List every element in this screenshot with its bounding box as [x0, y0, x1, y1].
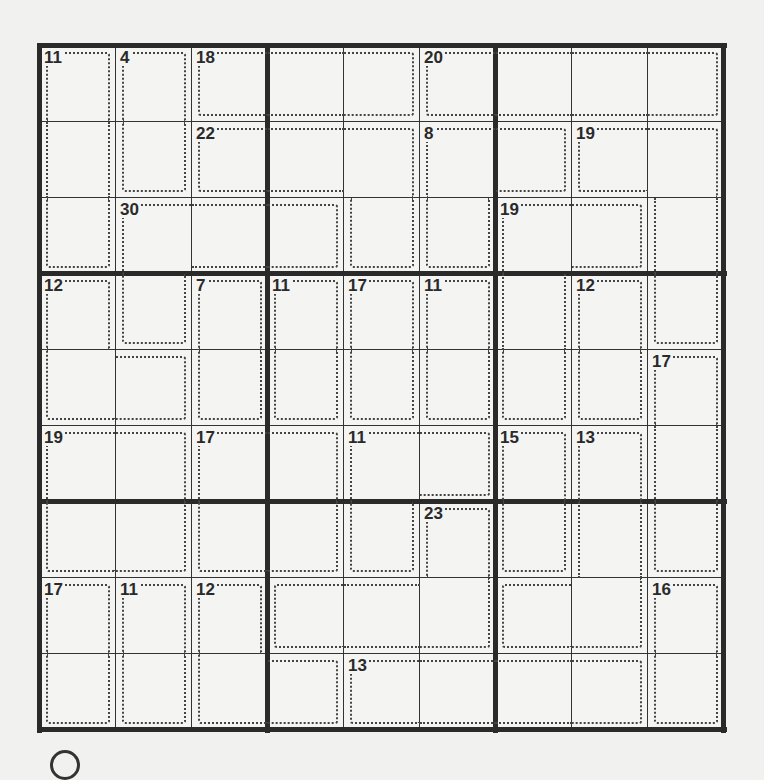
cage-sum-label: 12: [44, 277, 65, 294]
sudoku-cell[interactable]: [40, 502, 116, 578]
sudoku-cell[interactable]: [420, 198, 496, 274]
cage-sum-label: 13: [348, 657, 369, 674]
sudoku-cell[interactable]: [192, 654, 268, 730]
sudoku-cell[interactable]: [496, 274, 572, 350]
sudoku-cell[interactable]: [496, 46, 572, 122]
sudoku-cell[interactable]: [116, 122, 192, 198]
sudoku-cell[interactable]: [116, 654, 192, 730]
cage-sum-label: 15: [500, 429, 521, 446]
sudoku-cell[interactable]: [40, 198, 116, 274]
sudoku-cell[interactable]: [496, 654, 572, 730]
sudoku-cell[interactable]: [344, 350, 420, 426]
sudoku-cell[interactable]: [420, 654, 496, 730]
sudoku-cell[interactable]: [648, 502, 724, 578]
cage-sum-label: 17: [652, 353, 673, 370]
sudoku-cell[interactable]: [648, 46, 724, 122]
sudoku-cell[interactable]: [572, 578, 648, 654]
sudoku-cell[interactable]: [648, 122, 724, 198]
sudoku-cell[interactable]: [648, 198, 724, 274]
cage-sum-label: 11: [44, 49, 64, 66]
cage-sum-label: 22: [196, 125, 217, 142]
sudoku-cell[interactable]: [268, 198, 344, 274]
cage-sum-label: 17: [44, 581, 65, 598]
sudoku-cell[interactable]: [192, 350, 268, 426]
sudoku-cell[interactable]: [572, 502, 648, 578]
box-divider: [493, 43, 498, 733]
sudoku-cell[interactable]: [572, 46, 648, 122]
sudoku-cell[interactable]: [40, 350, 116, 426]
sudoku-cell[interactable]: [648, 426, 724, 502]
sudoku-cell[interactable]: [344, 46, 420, 122]
cage-sum-label: 8: [424, 125, 435, 142]
sudoku-cell[interactable]: [496, 502, 572, 578]
box-divider: [37, 727, 727, 732]
sudoku-cell[interactable]: [648, 274, 724, 350]
sudoku-cell[interactable]: [116, 274, 192, 350]
cage-sum-label: 19: [44, 429, 65, 446]
cage-sum-label: 11: [348, 429, 368, 446]
box-divider: [37, 43, 42, 733]
sudoku-cell[interactable]: [420, 578, 496, 654]
killer-sudoku-grid: 1141820228193019127111711121719171115132…: [40, 46, 724, 730]
cage-sum-label: 17: [196, 429, 217, 446]
cage-sum-label: 11: [424, 277, 444, 294]
sudoku-cell[interactable]: [648, 654, 724, 730]
box-divider: [265, 43, 270, 733]
sudoku-cell[interactable]: [344, 198, 420, 274]
sudoku-cell[interactable]: [496, 350, 572, 426]
box-divider: [37, 271, 727, 276]
sudoku-cell[interactable]: [192, 502, 268, 578]
sudoku-cell[interactable]: [344, 122, 420, 198]
sudoku-cell[interactable]: [116, 502, 192, 578]
sudoku-cell[interactable]: [40, 122, 116, 198]
sudoku-cell[interactable]: [268, 654, 344, 730]
cage-sum-label: 19: [576, 125, 597, 142]
cage-sum-label: 30: [120, 201, 141, 218]
cage-sum-label: 11: [120, 581, 140, 598]
sudoku-cell[interactable]: [268, 578, 344, 654]
sudoku-cell[interactable]: [572, 350, 648, 426]
sudoku-cell[interactable]: [572, 654, 648, 730]
cage-sum-label: 4: [120, 49, 131, 66]
sudoku-cell[interactable]: [268, 502, 344, 578]
sudoku-cell[interactable]: [268, 426, 344, 502]
sudoku-cell[interactable]: [192, 198, 268, 274]
box-divider: [37, 499, 727, 504]
cage-sum-label: 11: [272, 277, 292, 294]
cage-sum-label: 12: [576, 277, 597, 294]
sudoku-cell[interactable]: [496, 122, 572, 198]
cage-sum-label: 18: [196, 49, 217, 66]
sudoku-cell[interactable]: [268, 46, 344, 122]
cage-sum-label: 16: [652, 581, 673, 598]
puzzle-number-badge: [50, 750, 80, 780]
sudoku-cell[interactable]: [420, 350, 496, 426]
sudoku-cell[interactable]: [496, 578, 572, 654]
cage-sum-label: 20: [424, 49, 445, 66]
box-divider: [721, 43, 726, 733]
sudoku-cell[interactable]: [268, 350, 344, 426]
cage-sum-label: 23: [424, 505, 445, 522]
sudoku-cell[interactable]: [116, 350, 192, 426]
sudoku-cell[interactable]: [40, 654, 116, 730]
sudoku-cell[interactable]: [420, 426, 496, 502]
cage-sum-label: 19: [500, 201, 521, 218]
cage-sum-label: 12: [196, 581, 217, 598]
sudoku-cell[interactable]: [116, 426, 192, 502]
box-divider: [37, 43, 727, 48]
sudoku-cell[interactable]: [344, 578, 420, 654]
sudoku-cell[interactable]: [344, 502, 420, 578]
cage-sum-label: 7: [196, 277, 207, 294]
sudoku-cell[interactable]: [572, 198, 648, 274]
cage-sum-label: 13: [576, 429, 597, 446]
cage-sum-label: 17: [348, 277, 369, 294]
sudoku-cell[interactable]: [268, 122, 344, 198]
